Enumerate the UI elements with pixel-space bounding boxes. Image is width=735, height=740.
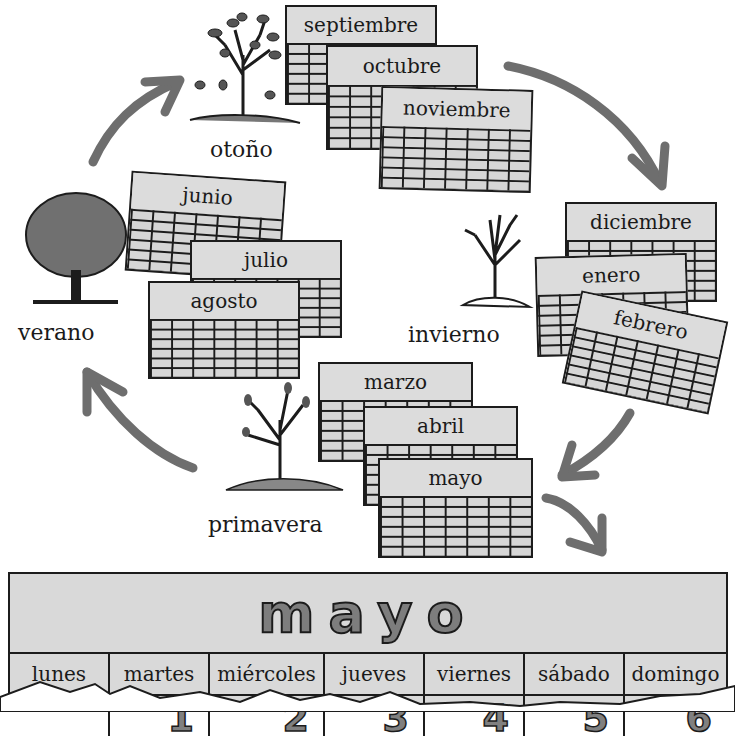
- season-label-verano: verano: [18, 320, 95, 345]
- month-card-agosto: agosto: [148, 281, 300, 379]
- season-label-invierno: invierno: [408, 322, 500, 347]
- arrow-invierno-to-primavera-icon: [550, 405, 640, 485]
- season-label-primavera: primavera: [208, 512, 323, 537]
- season-label-otono: otoño: [210, 137, 273, 162]
- torn-paper-edge: [0, 672, 735, 712]
- arrow-mayo-to-calendar-icon: [540, 490, 615, 560]
- winter-tree-icon: [455, 205, 535, 315]
- month-card-mayo: mayo: [378, 458, 533, 558]
- arrow-verano-to-otono-icon: [85, 70, 195, 170]
- month-card-noviembre: noviembre: [379, 86, 534, 193]
- month-card-febrero: febrero: [562, 290, 728, 414]
- summer-tree-icon: [18, 190, 133, 310]
- calendar-title: mayo: [10, 574, 726, 654]
